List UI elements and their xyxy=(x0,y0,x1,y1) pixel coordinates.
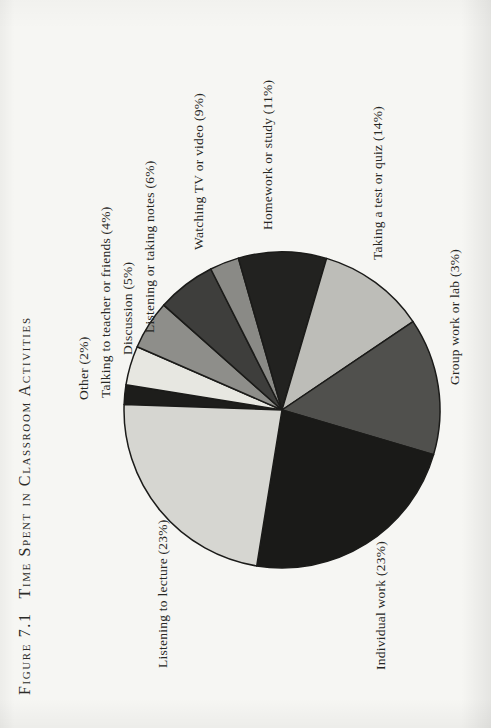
pie-chart xyxy=(0,0,491,728)
pie-slice-listening-to-lecture xyxy=(124,405,282,567)
slice-label-talking-to-teacher-or-friends: Talking to teacher or friends (4%) xyxy=(98,206,114,398)
slice-label-taking-a-test-or-quiz: Taking a test or quiz (14%) xyxy=(370,106,386,260)
slice-label-watching-tv-or-video: Watching TV or video (9%) xyxy=(191,93,207,250)
slice-label-group-work-or-lab: Group work or lab (3%) xyxy=(447,249,463,385)
slice-label-other: Other (2%) xyxy=(76,336,92,400)
slice-label-individual-work: Individual work (23%) xyxy=(373,541,389,670)
slice-label-discussion: Discussion (5%) xyxy=(120,262,136,355)
slice-label-listening-to-lecture: Listening to lecture (23%) xyxy=(155,519,171,668)
slice-label-homework-or-study: Homework or study (11%) xyxy=(260,80,276,230)
book-page: Figure 7.1Time Spent in Classroom Activi… xyxy=(0,0,491,728)
slice-label-listening-or-taking-notes: Listening or taking notes (6%) xyxy=(142,161,158,333)
figure-canvas: Figure 7.1Time Spent in Classroom Activi… xyxy=(0,0,491,728)
